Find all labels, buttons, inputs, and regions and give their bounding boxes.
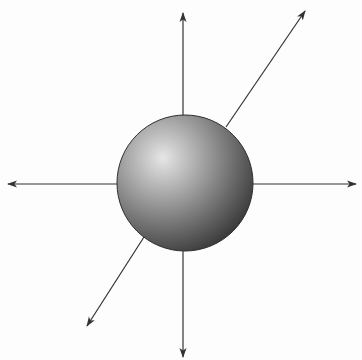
arrow-up-right: [226, 11, 305, 127]
sphere: [117, 115, 253, 251]
sphere-arrows-diagram: [0, 0, 362, 360]
arrow-down-left: [87, 237, 144, 326]
diagram-canvas: [0, 0, 362, 360]
